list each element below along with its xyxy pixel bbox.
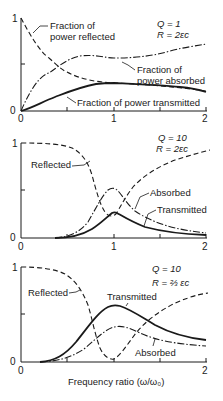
param-q: Q = 1: [157, 18, 181, 29]
label-reflected: Reflected: [31, 159, 71, 170]
label-absorbed: Absorbed: [135, 347, 176, 358]
arrow-reflected: [33, 26, 48, 33]
arrow-absorbed: [153, 339, 155, 346]
label-absorbed-line1: Fraction of: [137, 64, 182, 75]
panel-1: 1 0 0 1 2 Fraction of power reflected Fr…: [10, 13, 208, 124]
y-tick-label-1: 1: [12, 262, 18, 273]
x-tick-label-2: 2: [202, 113, 208, 124]
x-tick-label-0: 0: [18, 241, 24, 252]
curve-transmitted: [55, 212, 206, 238]
label-transmitted: Transmitted: [107, 291, 157, 302]
x-tick-label-0: 0: [18, 113, 24, 124]
label-reflected: Reflected: [28, 287, 68, 298]
label-absorbed: Absorbed: [150, 187, 191, 198]
arrow-absorbed: [135, 193, 149, 209]
panel-2: 1 0 0 1 2 Reflected Absorbed Transmitted…: [10, 132, 210, 252]
x-tick-label-0: 0: [18, 365, 24, 376]
y-tick-label-1: 1: [12, 13, 18, 24]
curve-absorbed: [40, 326, 206, 362]
y-tick-label-1: 1: [12, 138, 18, 149]
panel-3: 1 0 0 2 Reflected Transmitted Absorbed Q…: [10, 262, 208, 387]
label-reflected-line1: Fraction of: [50, 20, 95, 31]
label-transmitted: Transmitted: [157, 204, 207, 215]
curve-transmitted: [40, 305, 206, 362]
label-reflected-line2: power reflected: [50, 31, 115, 42]
param-r: R = ⅔ εc: [152, 277, 189, 288]
label-absorbed-line2: power absorbed: [137, 75, 205, 86]
y-tick-label-0: 0: [10, 105, 16, 116]
arrow-reflected: [69, 290, 80, 293]
y-tick-label-0: 0: [10, 232, 16, 243]
y-tick-label-0: 0: [10, 356, 16, 367]
x-tick-label-2: 2: [202, 365, 208, 376]
x-tick-label-1: 1: [111, 113, 117, 124]
param-r: R = 2εc: [156, 143, 188, 154]
arrow-transmitted: [126, 303, 128, 306]
x-tick-label-1: 1: [111, 241, 117, 252]
x-axis-label: Frequency ratio (ω/ω₀): [68, 376, 164, 387]
x-tick-label-2: 2: [202, 241, 208, 252]
label-transmitted: Fraction of power transmitted: [77, 97, 200, 108]
arrow-absorbed: [122, 62, 135, 70]
arrow-transmitted: [67, 97, 76, 103]
figure-canvas: 1 0 0 1 2 Fraction of power reflected Fr…: [0, 0, 223, 401]
param-q: Q = 10: [152, 263, 181, 274]
param-r: R = 2εc: [157, 29, 189, 40]
param-q: Q = 10: [158, 132, 187, 143]
